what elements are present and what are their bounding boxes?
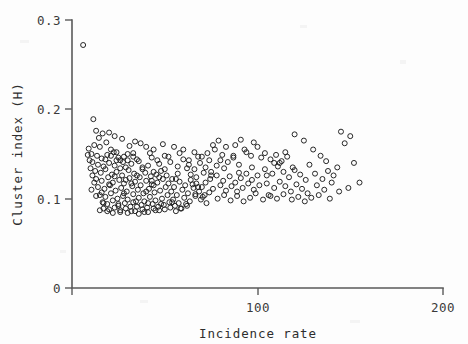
- x-tick-label-200: 200: [431, 300, 455, 315]
- data-point: [348, 134, 353, 139]
- data-point: [283, 184, 288, 189]
- data-point: [94, 128, 99, 133]
- data-point: [122, 201, 127, 206]
- data-point: [133, 139, 138, 144]
- data-point: [298, 172, 303, 177]
- data-point: [300, 186, 305, 191]
- data-point: [228, 198, 233, 203]
- data-point: [131, 154, 136, 159]
- data-point: [144, 144, 149, 149]
- data-point: [173, 177, 178, 182]
- data-point: [175, 171, 180, 176]
- data-point: [177, 151, 182, 156]
- data-point: [259, 155, 264, 160]
- data-point: [185, 191, 190, 196]
- data-point: [182, 195, 187, 200]
- data-point: [158, 188, 163, 193]
- data-point: [222, 193, 227, 198]
- data-point: [146, 163, 151, 168]
- data-point: [229, 184, 234, 189]
- data-point: [103, 194, 108, 199]
- data-point: [241, 199, 246, 204]
- data-point: [90, 173, 95, 178]
- data-point: [331, 173, 336, 178]
- data-point: [95, 153, 100, 158]
- data-point: [225, 160, 230, 165]
- data-point: [261, 197, 266, 202]
- data-point: [174, 193, 179, 198]
- data-point: [192, 150, 197, 155]
- data-point: [307, 162, 312, 167]
- data-point: [173, 209, 178, 214]
- data-point: [249, 165, 254, 170]
- data-point: [175, 164, 180, 169]
- data-point: [143, 170, 148, 175]
- data-point: [91, 117, 96, 122]
- x-axis-ticks: [72, 288, 443, 295]
- data-point: [351, 160, 356, 165]
- x-tick-label-100: 100: [246, 300, 270, 315]
- data-point: [168, 160, 173, 165]
- data-point: [95, 162, 100, 167]
- data-point: [216, 138, 221, 143]
- data-point: [220, 152, 225, 157]
- data-point: [262, 151, 267, 156]
- data-point: [301, 138, 306, 143]
- data-point: [203, 165, 208, 170]
- data-point: [168, 205, 173, 210]
- data-point: [227, 174, 232, 179]
- data-point: [120, 136, 125, 141]
- data-point: [204, 201, 209, 206]
- data-point: [100, 131, 105, 136]
- data-point: [244, 171, 249, 176]
- data-point: [192, 167, 197, 172]
- data-point: [346, 185, 351, 190]
- data-point: [215, 196, 220, 201]
- data-point: [240, 185, 245, 190]
- y-tick-label-0.1: 0.1: [37, 192, 61, 207]
- data-point: [135, 187, 140, 192]
- data-point: [96, 135, 101, 140]
- data-point: [335, 165, 340, 170]
- data-point: [136, 211, 141, 216]
- data-point: [172, 144, 177, 149]
- data-point: [327, 196, 332, 201]
- data-point: [287, 175, 292, 180]
- data-point: [113, 188, 118, 193]
- data-point: [338, 129, 343, 134]
- data-point: [296, 194, 301, 199]
- data-point: [311, 147, 316, 152]
- data-point: [106, 175, 111, 180]
- data-point: [198, 160, 203, 165]
- data-point: [207, 158, 212, 163]
- data-point: [218, 183, 223, 188]
- data-point: [81, 43, 86, 48]
- data-point: [119, 185, 124, 190]
- data-point: [131, 192, 136, 197]
- data-point: [147, 151, 152, 156]
- data-point: [281, 192, 286, 197]
- y-axis-ticks: [65, 20, 72, 288]
- data-point-group: [81, 43, 362, 217]
- data-point: [181, 157, 186, 162]
- data-point: [147, 194, 152, 199]
- data-point: [233, 143, 238, 148]
- data-point: [125, 158, 130, 163]
- data-point: [144, 178, 149, 183]
- data-point: [138, 141, 143, 146]
- data-point: [152, 190, 157, 195]
- data-point: [112, 134, 117, 139]
- scatter-plot-figure: 0.3 0.2 0.1 0 100 200 Incidence rate Clu…: [0, 0, 468, 344]
- data-point: [214, 163, 219, 168]
- data-point: [325, 168, 330, 173]
- data-point: [95, 185, 100, 190]
- data-point: [302, 199, 307, 204]
- data-point: [107, 130, 112, 135]
- plot-canvas: 0.3 0.2 0.1 0 100 200 Incidence rate Clu…: [0, 0, 468, 344]
- data-point: [196, 154, 201, 159]
- data-point: [270, 171, 275, 176]
- data-point: [159, 196, 164, 201]
- data-point: [313, 171, 318, 176]
- data-point: [238, 137, 243, 142]
- data-point: [205, 151, 210, 156]
